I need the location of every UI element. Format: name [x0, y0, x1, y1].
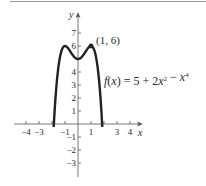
top-rule-divider [10, 1, 206, 2]
y-axis-label: y [68, 9, 74, 20]
x-tick-labels: −4−3−1134 [21, 127, 133, 137]
y-tick-label: 3 [72, 80, 77, 90]
x-tick-label: −3 [34, 127, 44, 137]
figure: −4−3−1134 764321−1−2−3 x y (1, 6) f(x) =… [0, 0, 206, 186]
y-ticks [78, 33, 81, 163]
x-tick-label: 4 [128, 127, 133, 137]
x-tick-label: 1 [89, 127, 94, 137]
x-tick-label: 3 [115, 127, 120, 137]
function-formula-label: f(x) = 5 + 2x2 − x4 [104, 70, 189, 88]
x-tick-label: −4 [21, 127, 31, 137]
y-tick-label: 7 [72, 28, 77, 38]
x-axis-label: x [137, 127, 143, 138]
y-tick-label: −3 [66, 158, 76, 168]
y-tick-label: 2 [72, 93, 77, 103]
y-tick-label: −2 [66, 145, 76, 155]
y-tick-label: 4 [72, 67, 77, 77]
function-graph: −4−3−1134 764321−1−2−3 x y (1, 6) f(x) =… [0, 0, 206, 186]
point-label: (1, 6) [96, 34, 120, 47]
y-tick-label: −1 [66, 132, 76, 142]
y-tick-label: 6 [72, 41, 77, 51]
y-tick-label: 1 [72, 106, 77, 116]
max-point-dot [89, 44, 94, 49]
axes: −4−3−1134 764321−1−2−3 x y [14, 9, 143, 177]
